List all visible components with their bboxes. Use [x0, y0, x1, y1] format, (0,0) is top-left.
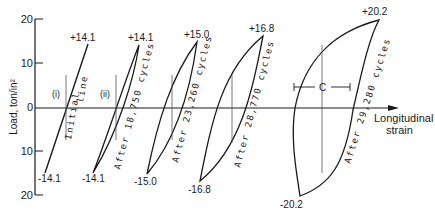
- cycles-28770-label: After 28,770 cycles: [232, 39, 276, 169]
- tick-m10: 10: [21, 145, 33, 157]
- s5-max-label: +20.2: [362, 6, 388, 17]
- s5-min-label: -20.2: [280, 199, 303, 210]
- arrow-head-icon: [388, 105, 399, 111]
- s2-min-label: -14.1: [82, 173, 105, 184]
- x-axis-label-1: Longitudinal: [374, 112, 433, 124]
- s2-max-label: +14.1: [128, 32, 154, 43]
- x-axis-label-2: strain: [386, 124, 413, 136]
- s4-min-label: -16.8: [188, 184, 211, 195]
- marker-ii: (ii): [100, 89, 110, 99]
- y-ticks: [35, 19, 43, 195]
- marker-i: (i): [52, 89, 60, 99]
- tick-p10: 10: [21, 57, 33, 69]
- cycles-29280-label: After 29,280 cycles: [342, 37, 392, 165]
- s3-min-label: -15.0: [134, 176, 157, 187]
- hysteresis-chart: 20 10 0 10 20 Load, ton/in² Longitudinal…: [0, 0, 435, 219]
- cycles-18750-label: After 18,750 cycles: [112, 41, 156, 171]
- initial-label-b: line: [75, 74, 90, 103]
- s4-max-label: +16.8: [249, 23, 275, 34]
- y-axis-label: Load, ton/in²: [8, 79, 19, 135]
- s1-max-label: +14.1: [70, 32, 96, 43]
- tick-zero: 0: [27, 101, 33, 113]
- s1-min-label: -14.1: [38, 173, 61, 184]
- c-label: C: [319, 82, 326, 93]
- tick-p20: 20: [21, 13, 33, 25]
- tick-m20: 20: [21, 189, 33, 201]
